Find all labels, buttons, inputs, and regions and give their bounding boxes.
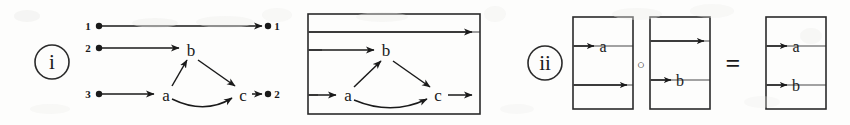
- part-ii-label: ii: [539, 51, 551, 75]
- scan-smudge: [356, 12, 408, 22]
- scan-smudge: [30, 104, 70, 114]
- scan-smudge: [262, 8, 292, 22]
- port-dot-left-1: [96, 23, 102, 29]
- port-dot-right-2: [265, 91, 271, 97]
- scan-smudge: [196, 16, 254, 28]
- port-dot-left-2: [96, 45, 102, 51]
- scan-smudge: [744, 96, 780, 108]
- scan-smudge: [500, 104, 534, 114]
- scan-smudge: [132, 18, 178, 28]
- node-label-b: b: [187, 41, 196, 60]
- port-label-right-2: 2: [274, 88, 280, 100]
- port-dot-left-3: [96, 91, 102, 97]
- part-i-label: i: [49, 50, 55, 74]
- box-ab-label-a: a: [792, 38, 799, 55]
- scan-smudge: [690, 4, 734, 18]
- paper-background: [0, 0, 850, 125]
- node-label-c: c: [239, 86, 247, 105]
- box-node-label-b: b: [382, 41, 391, 60]
- port-label-left-1: 1: [85, 20, 91, 32]
- scan-smudge: [612, 8, 662, 20]
- equals-operator: =: [726, 49, 741, 78]
- box-ab-label-b: b: [792, 77, 800, 94]
- scan-smudge: [14, 10, 40, 22]
- box-node-label-c: c: [434, 86, 442, 105]
- port-label-left-2: 2: [85, 42, 91, 54]
- string-diagram-figure: i: [0, 0, 850, 125]
- box-node-label-a: a: [344, 86, 352, 105]
- box-b-label-b: b: [676, 72, 684, 89]
- scan-smudge: [484, 6, 506, 22]
- box-a-label-a: a: [599, 38, 606, 55]
- scan-smudge: [800, 28, 822, 44]
- port-label-left-3: 3: [85, 88, 91, 100]
- figure-canvas: i: [0, 0, 850, 125]
- port-dot-right-1: [265, 23, 271, 29]
- compose-operator: ○: [637, 57, 645, 72]
- node-label-a: a: [162, 86, 170, 105]
